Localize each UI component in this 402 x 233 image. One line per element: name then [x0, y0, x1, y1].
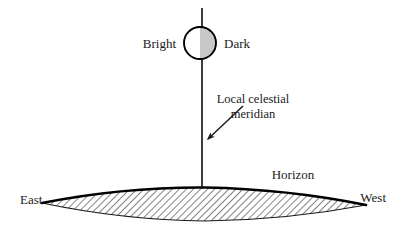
astronomy-diagram: Bright Dark Local celestial meridian Hor… [0, 0, 402, 233]
west-label: West [360, 190, 386, 205]
meridian-label-line1: Local celestial [217, 92, 290, 106]
east-label: East [20, 192, 43, 207]
ground-wedge [30, 180, 380, 230]
dark-label: Dark [224, 36, 250, 51]
meridian-label-line2: meridian [231, 107, 276, 121]
moon-bright-half [184, 27, 200, 59]
moon [184, 27, 216, 59]
moon-dark-half [200, 27, 216, 59]
bright-label: Bright [143, 36, 177, 51]
horizon-label: Horizon [272, 167, 315, 182]
diagram-canvas: Bright Dark Local celestial meridian Hor… [0, 0, 402, 233]
